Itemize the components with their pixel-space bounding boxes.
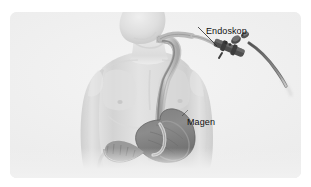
illustration-root: Endoskop Magen bbox=[0, 0, 311, 187]
endoscope-device bbox=[192, 30, 291, 95]
label-endoskop: Endoskop bbox=[206, 26, 247, 36]
illustration-frame: Endoskop Magen bbox=[10, 12, 301, 178]
anatomy-figure bbox=[10, 12, 301, 178]
label-magen: Magen bbox=[187, 117, 215, 127]
